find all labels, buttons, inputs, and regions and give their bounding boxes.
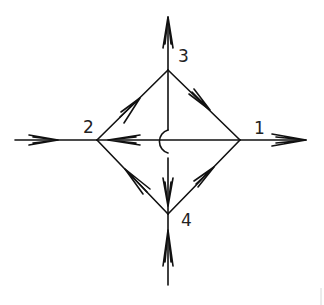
node-label-2: 2: [83, 117, 94, 137]
external-flow-into-node-4: [163, 214, 173, 285]
edge-3-to-1: [168, 70, 240, 140]
arrow-up-right-icon: [194, 167, 214, 187]
network-diagram: 3 2 1 4: [0, 0, 324, 305]
node-label-1: 1: [254, 118, 265, 138]
edge-2-to-3: [97, 70, 168, 140]
edge-4-to-1: [168, 140, 240, 214]
edge-4-to-2: [97, 140, 168, 214]
edge-1-to-2: [97, 135, 240, 145]
arrow-up-right-icon: [120, 98, 140, 123]
arrow-down-right-icon: [189, 89, 210, 110]
crossover-hop: [159, 130, 168, 153]
edge-3-to-4: [159, 70, 173, 214]
node-label-3: 3: [178, 46, 189, 66]
node-label-4: 4: [181, 210, 192, 230]
external-flow-out-of-node-3: [163, 17, 173, 70]
external-flow-out-of-node-1: [240, 134, 306, 146]
arrow-up-left-icon: [125, 169, 150, 194]
